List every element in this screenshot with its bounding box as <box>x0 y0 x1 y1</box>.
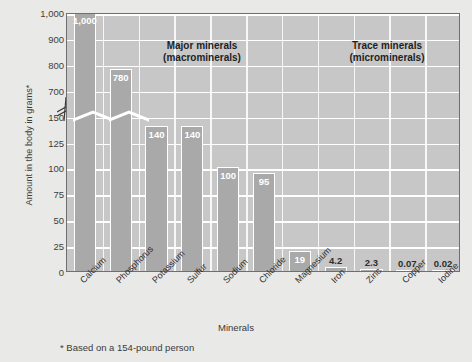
bar-rect[interactable]: 95 <box>253 173 275 271</box>
y-axis-tick-label: 900 <box>48 33 64 44</box>
bar-rect[interactable]: 140 <box>181 126 203 271</box>
y-axis-tick-label: 0 <box>59 267 64 278</box>
bar-break-slash <box>73 110 113 122</box>
footnote: * Based on a 154-pound person <box>60 342 194 353</box>
x-axis-title: Minerals <box>0 322 472 333</box>
bar-value-label: 140 <box>184 129 200 140</box>
group-label-trace-line1: Trace minerals <box>312 40 462 52</box>
bar-rect[interactable]: 100 <box>217 167 239 271</box>
bar-value-label: 95 <box>259 176 270 187</box>
y-axis-tick-label: 800 <box>48 59 64 70</box>
bar-value-label: 100 <box>220 170 236 181</box>
y-axis-tick-label: 50 <box>53 215 64 226</box>
group-label-major: Major minerals (macrominerals) <box>118 40 286 64</box>
bar-value-label: 1,000 <box>73 15 97 26</box>
bar-rect[interactable]: 1,000 <box>74 13 96 271</box>
bar-break-slash <box>109 110 149 122</box>
bar-value-label: 4.2 <box>329 255 342 266</box>
bar-rect[interactable]: 780 <box>110 69 132 271</box>
y-axis-tick-label: 100 <box>48 163 64 174</box>
y-axis-tick-label: 25 <box>53 241 64 252</box>
group-label-trace: Trace minerals (microminerals) <box>312 40 462 64</box>
group-label-major-line2: (macrominerals) <box>118 52 286 64</box>
bar-value-label: 780 <box>113 72 129 83</box>
y-axis-tick-label: 125 <box>48 137 64 148</box>
y-axis-tick-labels: 02550751001251507008009001,000 <box>24 0 64 362</box>
bar-calcium[interactable]: 1,000 <box>74 13 96 271</box>
group-label-trace-line2: (microminerals) <box>312 52 462 64</box>
group-label-major-line1: Major minerals <box>118 40 286 52</box>
chart-root: Amount in the body in grams* 02550751001… <box>0 0 472 362</box>
bar-value-label: 140 <box>149 129 165 140</box>
y-axis-tick-label: 75 <box>53 189 64 200</box>
bar-value-label: 19 <box>295 254 306 265</box>
bar-magnesium[interactable]: 19 <box>289 13 311 271</box>
y-axis-tick-label: 1,000 <box>40 8 64 19</box>
y-axis-tick-label: 700 <box>48 85 64 96</box>
